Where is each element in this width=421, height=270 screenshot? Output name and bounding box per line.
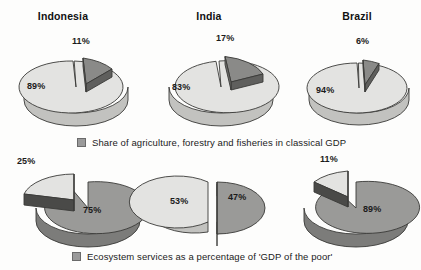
pie-chart-brazil-ecosystem: [288, 152, 416, 247]
pct-label-india-eco-left: 53%: [170, 196, 188, 206]
pct-label-indonesia-minor: 11%: [72, 36, 90, 46]
legend-label-text: Ecosystem services as a percentage of 'G…: [87, 251, 333, 262]
legend-swatch-icon: [77, 138, 86, 147]
pie-chart-india-ecosystem: [145, 158, 275, 250]
pct-label-indonesia-eco-major: 75%: [83, 205, 101, 215]
pct-label-brazil-eco-minor: 11%: [320, 154, 338, 164]
pct-label-brazil-eco-major: 89%: [363, 204, 381, 214]
pct-label-india-eco-right: 47%: [228, 192, 246, 202]
pct-label-brazil-major: 94%: [316, 85, 334, 95]
pie-title-brazil: Brazil: [307, 10, 407, 22]
pie-chart-indonesia-gdp: [16, 32, 136, 127]
pct-label-indonesia-eco-minor: 25%: [17, 156, 35, 166]
pct-label-brazil-minor: 6%: [356, 36, 369, 46]
legend-label-text: Share of agriculture, forestry and fishe…: [92, 137, 346, 148]
pct-label-indonesia-major: 89%: [27, 81, 45, 91]
pie-chart-india-gdp: [161, 32, 281, 127]
legend-swatch-icon: [72, 252, 81, 261]
pie-slice-right: [217, 182, 265, 234]
pie-chart-indonesia-ecosystem: [14, 152, 139, 247]
pct-label-india-minor: 17%: [216, 33, 234, 43]
pie-title-indonesia: Indonesia: [13, 10, 113, 22]
legend-item-ecosystem-services: Ecosystem services as a percentage of 'G…: [72, 251, 333, 262]
pie-title-india: India: [159, 10, 259, 22]
pct-label-india-major: 83%: [172, 82, 190, 92]
pie-chart-brazil-gdp: [303, 36, 421, 128]
legend-item-classical-gdp: Share of agriculture, forestry and fishe…: [77, 137, 346, 148]
